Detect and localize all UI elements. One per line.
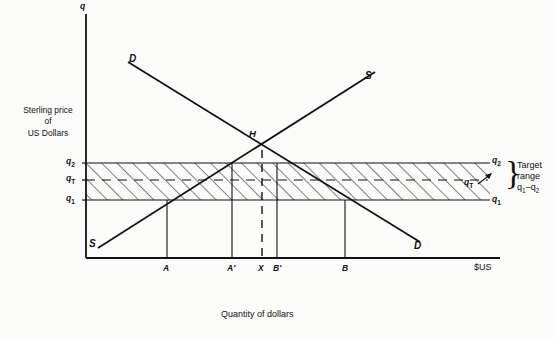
y-axis-caption: Sterling price of US Dollars (12, 105, 84, 139)
y-tick-right-label-q1: q1 (492, 195, 501, 206)
y-tick-right-label-qT: qT (464, 178, 473, 189)
y-axis-caption-line1: Sterling price (12, 105, 84, 116)
x-tick-label-A: A (163, 264, 169, 274)
y-tick-q2-sub: 2 (71, 161, 75, 168)
target-range-note-line1: Target (517, 160, 556, 171)
y-tick-right-q2-sub: 2 (497, 160, 501, 167)
demand-curve-label-top: D (129, 53, 136, 65)
target-range-note: Target range q1–q2 (517, 160, 556, 195)
y-axis-caption-line3: US Dollars (12, 128, 84, 139)
x-axis-caption: Quantity of dollars (221, 309, 294, 319)
y-tick-qT-sub: T (71, 178, 75, 185)
y-tick-label-qT: qT (66, 174, 75, 185)
y-tick-right-q1-sub: 1 (497, 199, 501, 206)
x-tick-label-A-prime: A' (227, 264, 235, 274)
demand-curve (128, 62, 420, 242)
target-range-q2-sub: 2 (536, 187, 540, 194)
y-axis-caption-line2: of (12, 116, 84, 127)
point-label-H: H (249, 129, 256, 140)
supply-curve-label-top: S (365, 70, 372, 82)
x-tick-label-B: B (342, 264, 348, 274)
y-tick-label-q1: q1 (66, 194, 75, 205)
target-range-band (86, 163, 490, 200)
axes (86, 14, 500, 258)
y-axis-symbol: q (80, 2, 85, 12)
y-tick-right-qT-sub: T (469, 182, 473, 189)
x-tick-label-X: X (258, 264, 264, 274)
supply-curve-label-bottom: S (89, 238, 96, 250)
x-axis-symbol: $US (474, 262, 492, 272)
supply-curve (98, 72, 375, 248)
demand-curve-label-bottom: D (414, 240, 421, 252)
exchange-rate-target-zone-diagram: q Sterling price of US Dollars q2 qT q1 … (0, 0, 556, 339)
diagram-canvas (0, 0, 556, 339)
target-range-note-line2: range (517, 171, 556, 182)
x-tick-label-B-prime: B' (273, 264, 281, 274)
target-range-note-line3: q1–q2 (517, 182, 556, 195)
y-tick-q1-sub: 1 (71, 198, 75, 205)
y-tick-label-q2: q2 (66, 157, 75, 168)
y-tick-right-label-q2: q2 (492, 156, 501, 167)
